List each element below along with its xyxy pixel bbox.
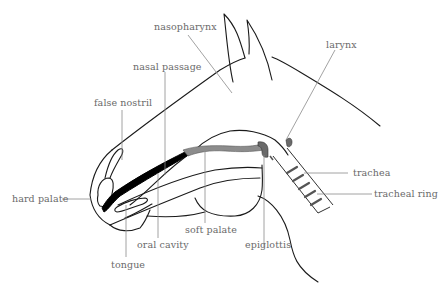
false-nostril-icon [105, 149, 123, 178]
soft-palate-shape [183, 144, 264, 156]
label-false-nostril: false nostril [94, 98, 152, 108]
ear-right-and-neck-icon [247, 20, 380, 126]
trachea-shape [273, 148, 333, 213]
ear-left-icon [224, 14, 245, 82]
label-hard-palate: hard palate [12, 194, 68, 204]
label-soft-palate: soft palate [185, 225, 237, 235]
label-epiglottis: epiglottis [245, 240, 291, 250]
larynx-shape [286, 138, 292, 147]
diagram-drawing [0, 0, 440, 293]
epiglottis-tip [270, 156, 273, 160]
label-nasopharynx: nasopharynx [154, 22, 217, 32]
label-nasal-passage: nasal passage [133, 62, 202, 72]
label-tracheal-ring: tracheal ring [374, 189, 438, 199]
leader-larynx [286, 50, 335, 140]
hard-palate-shape [102, 151, 191, 212]
label-larynx: larynx [326, 40, 357, 50]
label-oral-cavity: oral cavity [137, 240, 189, 250]
label-trachea: trachea [353, 168, 390, 178]
horse-airway-diagram: nasopharynx nasal passage false nostril … [0, 0, 440, 293]
label-tongue: tongue [111, 260, 145, 270]
